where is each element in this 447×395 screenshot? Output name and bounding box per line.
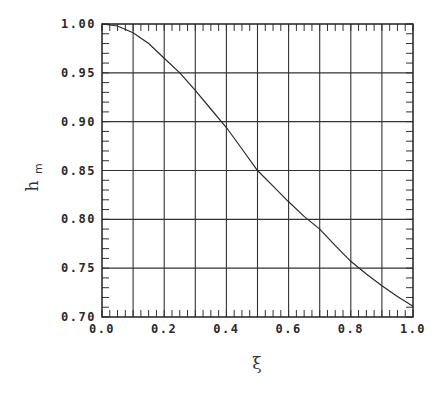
x-tick-label: 0.0: [89, 322, 115, 336]
x-axis-label: ξ: [252, 353, 261, 373]
x-tick-label: 0.4: [213, 322, 239, 336]
y-tick-labels: 0.700.750.800.850.900.951.00: [61, 17, 96, 324]
y-tick-label: 0.85: [61, 164, 96, 178]
y-tick-label: 1.00: [61, 17, 96, 31]
x-tick-label: 1.0: [400, 322, 426, 336]
y-tick-label: 0.95: [61, 66, 96, 80]
y-axis-label-subscript: m: [32, 163, 45, 174]
x-tick-label: 0.8: [338, 322, 364, 336]
x-tick-labels: 0.00.20.40.60.81.0: [89, 322, 426, 336]
x-tick-label: 0.6: [276, 322, 302, 336]
x-tick-label: 0.2: [151, 322, 177, 336]
y-tick-label: 0.80: [61, 212, 96, 226]
y-axis-label-main: h: [22, 180, 42, 191]
y-tick-label: 0.90: [61, 115, 96, 129]
y-axis-label: h m: [22, 163, 45, 191]
line-chart: 0.700.750.800.850.900.951.00 0.00.20.40.…: [0, 0, 447, 395]
y-tick-label: 0.75: [61, 261, 96, 275]
